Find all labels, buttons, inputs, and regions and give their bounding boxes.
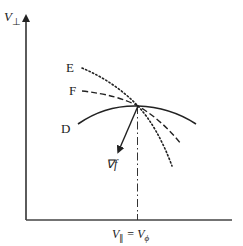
gradient-arrow: [119, 106, 138, 150]
curve-e-dotted: [82, 68, 172, 166]
y-axis-label: V⊥: [4, 9, 21, 27]
curve-d-label: D: [61, 121, 70, 136]
x-axis-label: V∥ = Vϕ: [112, 227, 149, 243]
diagram-canvas: V⊥ V∥ = Vϕ E F D ∇f: [0, 0, 243, 246]
gradient-label: ∇f: [106, 157, 119, 171]
curve-f-label: F: [69, 83, 76, 98]
curve-e-label: E: [66, 60, 74, 75]
